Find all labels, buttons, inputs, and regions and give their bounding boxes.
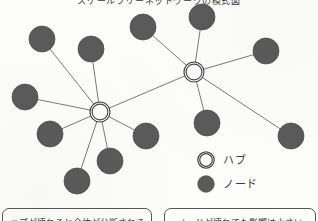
network-node — [133, 123, 159, 149]
network-node — [12, 84, 38, 110]
right-callout-box: ノードが壊れても影響は小さい — [164, 208, 316, 221]
network-node — [64, 168, 90, 194]
network-node — [78, 36, 104, 62]
legend-item-node: ノード — [196, 172, 306, 196]
hub-node — [90, 102, 110, 122]
figure-page: スケールフリーネットワークの模式図 ハブ ノード — [0, 0, 318, 221]
network-node — [189, 4, 215, 30]
node-circle — [12, 84, 38, 110]
node-circle — [29, 26, 55, 52]
node-circle — [189, 4, 215, 30]
hub-inner-ring — [92, 104, 108, 120]
node-circle-icon — [196, 174, 216, 194]
network-node — [97, 148, 123, 174]
legend: ハブ ノード — [196, 148, 306, 196]
network-node — [130, 14, 156, 40]
node-circle — [78, 36, 104, 62]
callout-box-row: ハブが壊れると全体が分断される ノードが壊れても影響は小さい — [0, 208, 318, 221]
hub-node — [184, 62, 204, 82]
hub-inner-ring — [186, 64, 202, 80]
node-circle — [37, 121, 63, 147]
network-node — [253, 38, 279, 64]
legend-label-hub: ハブ — [223, 155, 246, 166]
node-circle — [194, 110, 220, 136]
left-callout-box: ハブが壊れると全体が分断される — [2, 208, 152, 221]
network-node — [37, 121, 63, 147]
node-circle — [278, 123, 304, 149]
right-callout-text: ノードが壊れても影響は小さい — [165, 216, 315, 221]
network-edge — [100, 72, 194, 112]
legend-label-node: ノード — [223, 179, 258, 190]
left-callout-text: ハブが壊れると全体が分断される — [3, 216, 151, 221]
node-circle — [130, 14, 156, 40]
legend-item-hub: ハブ — [196, 148, 306, 172]
hub-circle-icon — [196, 150, 216, 170]
network-node — [29, 26, 55, 52]
node-circle — [64, 168, 90, 194]
node-circle — [133, 123, 159, 149]
node-circle — [253, 38, 279, 64]
network-node — [278, 123, 304, 149]
network-node — [194, 110, 220, 136]
node-circle — [97, 148, 123, 174]
